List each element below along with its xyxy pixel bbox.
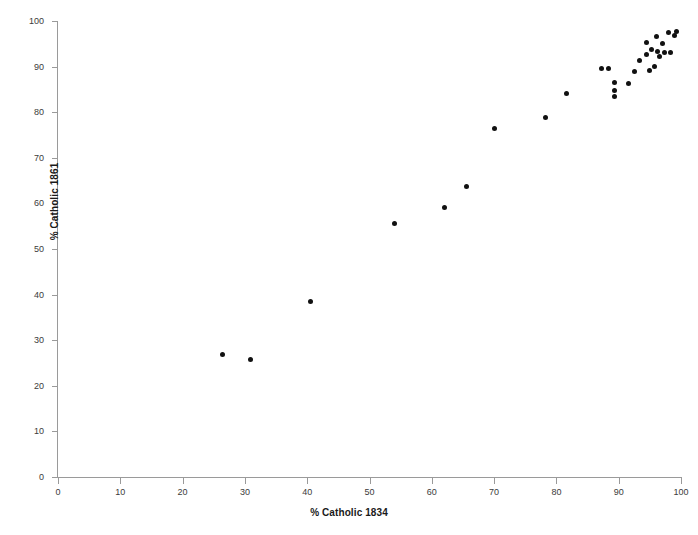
x-tick-label: 100 — [661, 487, 698, 497]
x-tick-label: 90 — [599, 487, 639, 497]
data-point — [492, 126, 497, 131]
data-point — [612, 80, 617, 85]
x-axis-title: % Catholic 1834 — [0, 507, 698, 518]
y-tick-label: 0 — [0, 472, 44, 482]
data-point — [662, 50, 667, 55]
data-point — [612, 94, 617, 99]
data-point — [626, 81, 631, 86]
x-tick-mark — [58, 478, 59, 484]
data-point — [599, 66, 604, 71]
data-point — [392, 221, 397, 226]
data-point — [660, 41, 665, 46]
x-tick-mark — [494, 478, 495, 484]
data-point — [657, 54, 662, 59]
x-tick-label: 70 — [474, 487, 514, 497]
y-tick-label: 50 — [0, 244, 44, 254]
data-point — [644, 52, 649, 57]
x-tick-label: 10 — [100, 487, 140, 497]
y-tick-label: 100 — [0, 16, 44, 26]
x-tick-mark — [183, 478, 184, 484]
data-point — [674, 29, 679, 34]
data-point — [248, 357, 253, 362]
x-tick-label: 40 — [287, 487, 327, 497]
y-tick-label: 80 — [0, 107, 44, 117]
data-point — [655, 49, 660, 54]
data-point — [220, 352, 225, 357]
x-tick-label: 80 — [536, 487, 576, 497]
x-tick-label: 30 — [225, 487, 265, 497]
y-tick-label: 10 — [0, 426, 44, 436]
data-point — [442, 205, 447, 210]
data-point — [668, 50, 673, 55]
x-tick-mark — [370, 478, 371, 484]
x-tick-label: 20 — [163, 487, 203, 497]
data-point — [666, 30, 671, 35]
x-tick-mark — [556, 478, 557, 484]
y-tick-label: 40 — [0, 290, 44, 300]
data-point — [637, 58, 642, 63]
x-tick-mark — [681, 478, 682, 484]
x-tick-mark — [120, 478, 121, 484]
plot-area — [58, 21, 681, 477]
x-tick-mark — [619, 478, 620, 484]
data-point — [649, 47, 654, 52]
y-tick-label: 20 — [0, 381, 44, 391]
x-tick-mark — [307, 478, 308, 484]
data-point — [464, 184, 469, 189]
y-tick-label: 60 — [0, 198, 44, 208]
x-tick-mark — [432, 478, 433, 484]
data-point — [654, 34, 659, 39]
data-point — [308, 299, 313, 304]
y-tick-label: 70 — [0, 153, 44, 163]
data-point — [652, 64, 657, 69]
data-point — [644, 40, 649, 45]
data-point — [612, 88, 617, 93]
x-tick-label: 50 — [350, 487, 390, 497]
data-point — [543, 115, 548, 120]
x-tick-label: 60 — [412, 487, 452, 497]
data-point — [606, 66, 611, 71]
scatter-chart: 0102030405060708090100 01020304050607080… — [0, 0, 698, 535]
x-tick-mark — [245, 478, 246, 484]
data-point — [647, 68, 652, 73]
data-point — [632, 69, 637, 74]
data-point — [564, 91, 569, 96]
x-tick-label: 0 — [38, 487, 78, 497]
y-tick-label: 30 — [0, 335, 44, 345]
y-tick-label: 90 — [0, 62, 44, 72]
